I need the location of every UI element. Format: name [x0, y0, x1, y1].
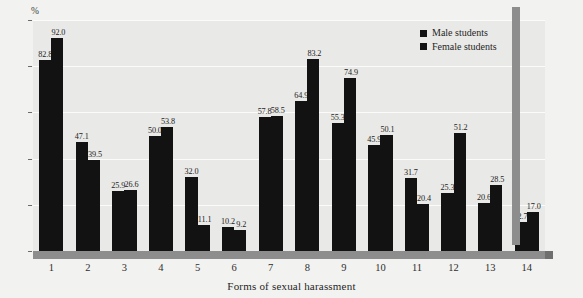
- bar-male: [478, 203, 490, 251]
- y-axis-unit-label: %: [31, 6, 39, 16]
- legend-swatch-icon: [420, 43, 427, 50]
- y-tick-mark: [28, 251, 32, 252]
- legend-item-female: Female students: [420, 41, 497, 54]
- y-tick-mark: [28, 66, 32, 67]
- x-tick-label: 10: [362, 262, 399, 273]
- bar-male: [368, 145, 380, 251]
- bar-value-label: 9.2: [231, 220, 252, 229]
- plot-right-shadow: [512, 7, 520, 245]
- bar-group: 55.374.9: [332, 20, 356, 251]
- bar-group: 57.858.5: [259, 20, 283, 251]
- bar-group: 20.628.5: [478, 20, 502, 251]
- bar-female: [198, 225, 210, 251]
- bar-value-label: 11.1: [194, 215, 215, 224]
- legend-label-male: Male students: [432, 27, 488, 40]
- plot-floor-shadow: [33, 251, 545, 259]
- x-tick-label: 12: [435, 262, 472, 273]
- bar-value-label: 39.5: [84, 150, 105, 159]
- bar-male: [441, 193, 453, 251]
- y-tick-mark: [28, 112, 32, 113]
- bar-value-label: 47.1: [71, 132, 92, 141]
- plot-area: 82.892.047.139.525.926.650.053.832.011.1…: [33, 20, 545, 251]
- x-tick-label: 5: [179, 262, 216, 273]
- bar-male: [222, 227, 234, 251]
- bar-male: [295, 101, 307, 251]
- bar-value-label: 74.9: [340, 68, 361, 77]
- bar-female: [380, 135, 392, 251]
- bar-group: 32.011.1: [185, 20, 209, 251]
- x-tick-label: 1: [33, 262, 70, 273]
- legend-swatch-icon: [420, 30, 427, 37]
- x-tick-label: 9: [326, 262, 363, 273]
- bar-group: 31.720.4: [405, 20, 429, 251]
- bar-group: 50.053.8: [149, 20, 173, 251]
- bar-value-label: 32.0: [181, 167, 202, 176]
- bar-group: 10.29.2: [222, 20, 246, 251]
- bar-groups: 82.892.047.139.525.926.650.053.832.011.1…: [33, 20, 545, 251]
- bar-male: [185, 177, 197, 251]
- x-tick-label: 4: [143, 262, 180, 273]
- x-tick-label: 3: [106, 262, 143, 273]
- bar-female: [307, 59, 319, 251]
- bar-value-label: 58.5: [267, 106, 288, 115]
- bar-male: [149, 136, 161, 252]
- bar-group: 82.892.0: [39, 20, 63, 251]
- x-tick-label: 14: [508, 262, 545, 273]
- bar-female: [490, 185, 502, 251]
- x-tick-label: 7: [252, 262, 289, 273]
- x-tick-label: 13: [472, 262, 509, 273]
- y-tick-mark: [28, 20, 32, 21]
- bar-female: [344, 78, 356, 251]
- x-axis-title: Forms of sexual harassment: [0, 280, 583, 292]
- bar-female: [51, 38, 63, 251]
- bar-value-label: 92.0: [48, 28, 69, 37]
- legend-label-female: Female students: [432, 41, 497, 54]
- bar-group: 64.983.2: [295, 20, 319, 251]
- bar-group: 47.139.5: [76, 20, 100, 251]
- bar-value-label: 28.5: [487, 175, 508, 184]
- bar-value-label: 20.4: [413, 194, 434, 203]
- bar-group: 25.351.2: [441, 20, 465, 251]
- bar-female: [124, 190, 136, 251]
- bar-female: [161, 127, 173, 251]
- bar-female: [527, 212, 539, 251]
- plot-floor-corner: [545, 251, 553, 259]
- bar-female: [271, 116, 283, 251]
- bar-male: [112, 191, 124, 251]
- bar-group: 25.926.6: [112, 20, 136, 251]
- bar-value-label: 17.0: [523, 202, 544, 211]
- bar-female: [417, 204, 429, 251]
- bar-chart: % 82.892.047.139.525.926.650.053.832.011…: [0, 0, 583, 298]
- y-tick-mark: [28, 205, 32, 206]
- x-tick-label: 2: [70, 262, 107, 273]
- bar-male: [39, 60, 51, 251]
- x-tick-label: 11: [399, 262, 436, 273]
- bar-value-label: 51.2: [450, 123, 471, 132]
- bar-female: [234, 230, 246, 251]
- x-tick-label: 8: [289, 262, 326, 273]
- bar-value-label: 50.1: [377, 125, 398, 134]
- bar-value-label: 26.6: [121, 180, 142, 189]
- y-tick-mark: [28, 159, 32, 160]
- legend-item-male: Male students: [420, 27, 497, 40]
- bar-male: [259, 117, 271, 251]
- x-tick-label: 6: [216, 262, 253, 273]
- bar-male: [332, 123, 344, 251]
- bar-value-label: 31.7: [400, 168, 421, 177]
- bar-value-label: 53.8: [157, 117, 178, 126]
- bar-group: 45.950.1: [368, 20, 392, 251]
- legend: Male students Female students: [420, 27, 497, 54]
- bar-female: [454, 133, 466, 251]
- bar-value-label: 83.2: [304, 49, 325, 58]
- bar-female: [88, 160, 100, 251]
- bar-male: [405, 178, 417, 251]
